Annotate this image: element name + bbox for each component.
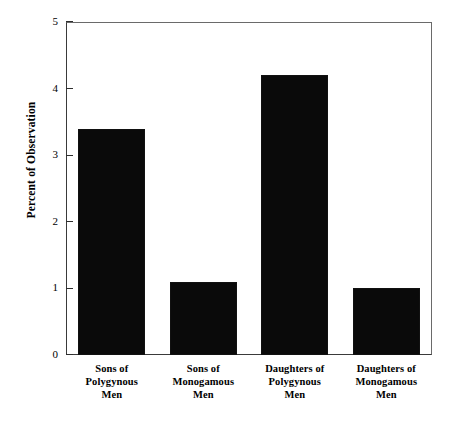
y-tick-label-text: 1 xyxy=(14,282,58,293)
y-tick-label: 1 xyxy=(0,282,58,293)
y-tick-label-text: 0 xyxy=(14,349,58,360)
bar xyxy=(170,282,237,355)
y-tick-label: 5 xyxy=(0,16,58,27)
y-tick-label: 0 xyxy=(0,349,58,360)
x-category-label: Daughters of Monogamous Men xyxy=(341,362,433,402)
x-category-label: Daughters of Polygynous Men xyxy=(249,362,341,402)
x-category-label: Sons of Monogamous Men xyxy=(158,362,250,402)
bar-chart-figure: Percent of Observation 012345 Sons of Po… xyxy=(0,0,457,423)
bar xyxy=(78,129,145,355)
y-tick-label-text: 3 xyxy=(14,149,58,160)
bar xyxy=(261,75,328,355)
y-tick-label-text: 4 xyxy=(14,83,58,94)
y-tick-label: 3 xyxy=(0,149,58,160)
plot-area xyxy=(66,22,432,355)
bar xyxy=(353,288,420,355)
y-tick-label: 4 xyxy=(0,83,58,94)
x-category-label: Sons of Polygynous Men xyxy=(66,362,158,402)
y-tick-label-text: 2 xyxy=(14,216,58,227)
y-tick-label: 2 xyxy=(0,216,58,227)
y-tick-label-text: 5 xyxy=(14,16,58,27)
